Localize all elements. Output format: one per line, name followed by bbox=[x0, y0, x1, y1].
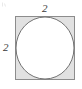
inscribed-circle bbox=[16, 17, 74, 79]
figure-canvas: 2 2 bbox=[0, 0, 82, 89]
left-side-length-label: 2 bbox=[3, 42, 9, 53]
top-side-length-label: 2 bbox=[42, 3, 48, 14]
geometry-figure bbox=[0, 0, 82, 89]
corner-speck-icon bbox=[2, 2, 6, 7]
